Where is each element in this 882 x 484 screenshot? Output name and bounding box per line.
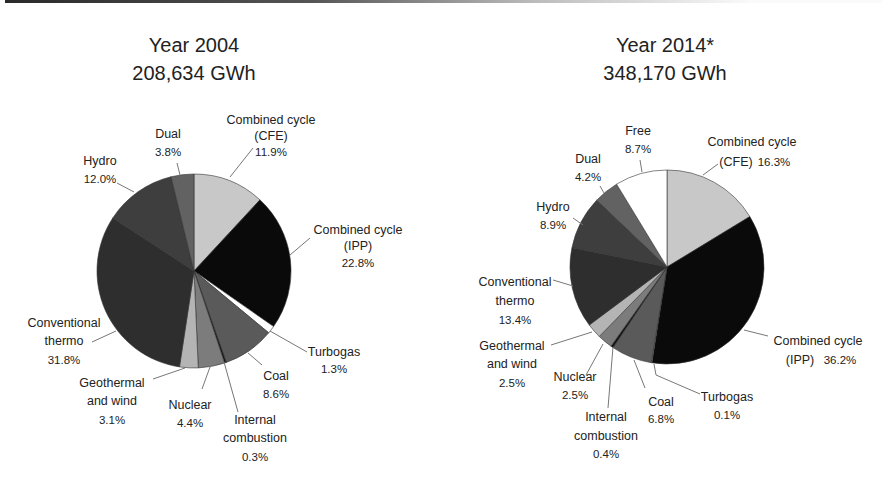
label-conv: thermo <box>496 294 535 308</box>
label-ipp: (IPP) <box>344 239 372 253</box>
label-turbogas: Turbogas <box>308 345 360 359</box>
leader-line <box>92 331 116 342</box>
pct-coal: 8.6% <box>263 388 289 400</box>
leader-line <box>744 330 768 336</box>
label-ipp: (IPP) <box>786 353 814 367</box>
pct-internal: 0.4% <box>593 448 619 460</box>
label-hydro: Hydro <box>83 154 116 168</box>
label-geo: Geothermal <box>479 339 544 353</box>
right-chart-subtitle: 348,170 GWh <box>603 62 726 84</box>
leader-line <box>202 367 210 389</box>
leader-line <box>640 160 642 172</box>
label-internal: Internal <box>234 413 276 427</box>
label-coal: Coal <box>263 369 289 383</box>
left-chart-title: Year 2004 <box>149 34 239 56</box>
pct-hydro: 8.9% <box>540 219 566 231</box>
leader-line <box>703 164 718 175</box>
pct-geo: 2.5% <box>499 377 525 389</box>
leader-line <box>248 353 262 365</box>
pct-coal: 6.8% <box>648 413 674 425</box>
leader-line <box>551 332 592 345</box>
leader-line <box>290 238 310 255</box>
pct-geo: 3.1% <box>99 414 125 426</box>
pct-hydro: 12.0% <box>84 173 117 185</box>
label-internal: Internal <box>585 410 627 424</box>
label-geo: and wind <box>87 394 137 408</box>
label-geo: Geothermal <box>79 376 144 390</box>
pct-dual: 4.2% <box>575 171 601 183</box>
label-ipp: Combined cycle <box>314 223 403 237</box>
label-cfe: Combined cycle <box>227 113 316 127</box>
pct-cfe: 16.3% <box>758 156 791 168</box>
leader-line <box>553 280 573 286</box>
right-chart-title: Year 2014* <box>616 34 714 56</box>
leader-line <box>270 331 307 352</box>
pct-free: 8.7% <box>625 143 651 155</box>
pct-conv: 31.8% <box>48 354 81 366</box>
pct-conv: 13.4% <box>499 314 532 326</box>
label-nuclear: Nuclear <box>553 370 596 384</box>
label-cfe: Combined cycle <box>708 135 797 149</box>
label-cfe: (CFE) <box>254 129 287 143</box>
right-pie <box>570 170 764 364</box>
leader-line <box>177 163 180 175</box>
pct-ipp: 22.8% <box>342 257 375 269</box>
leader-line <box>600 186 604 193</box>
leader-line <box>224 362 238 412</box>
label-internal: combustion <box>574 429 638 443</box>
leader-line <box>634 360 645 388</box>
left-pie <box>97 174 291 368</box>
label-cfe: (CFE) <box>719 155 752 169</box>
pct-cfe: 11.9% <box>255 146 287 158</box>
leader-line <box>117 183 134 192</box>
label-coal: Coal <box>648 395 674 409</box>
label-nuclear: Nuclear <box>168 398 211 412</box>
pct-ipp: 36.2% <box>824 354 857 366</box>
label-turbogas: Turbogas <box>701 390 753 404</box>
leader-line <box>153 368 185 379</box>
label-geo: and wind <box>487 357 537 371</box>
label-conv: Conventional <box>479 275 552 289</box>
leader-line <box>230 148 253 177</box>
leader-line <box>608 347 613 408</box>
label-free: Free <box>625 124 651 138</box>
label-dual: Dual <box>155 127 181 141</box>
pct-dual: 3.8% <box>155 146 181 158</box>
label-dual: Dual <box>575 152 601 166</box>
label-conv: thermo <box>45 334 84 348</box>
label-internal: combustion <box>223 431 287 445</box>
left-chart-subtitle: 208,634 GWh <box>132 62 255 84</box>
pie-charts: Year 2004 208,634 GWh Year 2014* 348,170… <box>0 0 882 484</box>
label-conv: Conventional <box>28 316 101 330</box>
pct-internal: 0.3% <box>242 451 268 463</box>
label-ipp: Combined cycle <box>774 334 863 348</box>
pct-nuclear: 4.4% <box>177 417 203 429</box>
leader-line <box>654 364 700 394</box>
label-hydro: Hydro <box>536 200 569 214</box>
pct-turbogas: 1.3% <box>321 363 347 375</box>
pct-nuclear: 2.5% <box>562 389 588 401</box>
pct-turbogas: 0.1% <box>714 409 740 421</box>
